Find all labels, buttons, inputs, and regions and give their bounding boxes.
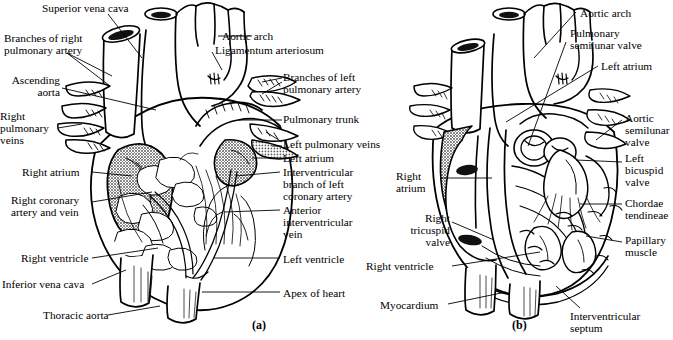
label-right-pulmonary-veins: Right pulmonary veins: [0, 110, 49, 147]
heart-anatomy-figure: Superior vena cava Branches of right pul…: [0, 0, 673, 340]
label-interventricular-septum: Interventricular septum: [570, 310, 640, 334]
label-anterior-interventricular-vein: Anterior interventricular vein: [283, 204, 353, 241]
label-aortic-arch: Aortic arch: [222, 30, 273, 42]
label-myocardium: Myocardium: [380, 299, 438, 311]
label-left-bicuspid-valve: Left bicuspid valve: [625, 152, 663, 189]
figure-caption-a: (a): [252, 318, 266, 333]
label-aortic-arch-b: Aortic arch: [580, 7, 631, 19]
label-papillary-muscle: Papillary muscle: [625, 234, 666, 258]
label-ligamentum-arteriosum: Ligamentum arteriosum: [215, 44, 324, 56]
label-inferior-vena-cava: Inferior vena cava: [2, 278, 84, 290]
label-superior-vena-cava: Superior vena cava: [42, 2, 129, 14]
label-branches-of-right-pulmonary-artery: Branches of right pulmonary artery: [4, 32, 82, 56]
label-thoracic-aorta: Thoracic aorta: [43, 309, 109, 321]
label-right-ventricle-b: Right ventricle: [366, 260, 433, 272]
label-left-pulmonary-veins: Left pulmonary veins: [283, 138, 380, 150]
label-pulmonary-semilunar-valve: Pulmonary semilunar valve: [570, 27, 642, 51]
label-branches-of-left-pulmonary-artery: Branches of left pulmonary artery: [283, 71, 361, 95]
figure-caption-b: (b): [512, 318, 527, 333]
label-right-atrium-b: Right atrium: [396, 170, 426, 194]
label-right-ventricle: Right ventricle: [21, 252, 88, 264]
label-right-coronary-artery-and-vein: Right coronary artery and vein: [11, 194, 79, 218]
label-pulmonary-trunk: Pulmonary trunk: [283, 113, 359, 125]
label-chordae-tendineae: Chordae tendineae: [625, 197, 668, 221]
label-aortic-semilunar-valve: Aortic semilunar valve: [625, 112, 670, 149]
label-left-atrium: Left atrium: [283, 152, 334, 164]
label-apex-of-heart: Apex of heart: [283, 287, 345, 299]
label-ascending-aorta: Ascending aorta: [0, 74, 60, 98]
label-interventricular-branch-of-left-coronary-artery: Interventricular branch of left coronary…: [283, 166, 353, 203]
label-right-tricuspid-valve: Right tricuspid valve: [368, 212, 450, 249]
label-left-ventricle: Left ventricle: [283, 253, 344, 265]
label-right-atrium: Right atrium: [22, 166, 79, 178]
label-left-atrium-b: Left atrium: [601, 60, 652, 72]
